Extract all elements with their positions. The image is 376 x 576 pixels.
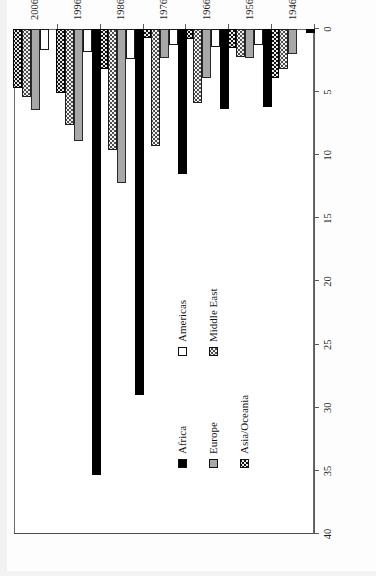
bar-africa-1986-1995: [135, 29, 144, 395]
legend-label-asia-oceania: Asia/Oceania: [238, 395, 250, 454]
europe-swatch: [209, 459, 218, 468]
category-label-1946-1955: 1946-1955: [287, 0, 298, 20]
bar-africa-1976-1985: [178, 29, 187, 174]
value-tick-20: [314, 281, 319, 282]
bar-europe-1966-1975: [202, 29, 211, 78]
value-tick-25: [314, 344, 319, 345]
bar-americas-1966-1975: [211, 29, 220, 47]
legend-item-europe: Europe: [207, 422, 219, 468]
legend-label-middle-east: Middle East: [207, 289, 219, 342]
middle-east-swatch: [209, 347, 218, 356]
bar-middle-east-1996-2005: [65, 29, 74, 125]
category-label-1956-1965: 1956-1965: [244, 0, 255, 20]
category-label-1986-1995: 1986-1995: [115, 0, 126, 20]
value-tick-label-25: 25: [322, 330, 333, 360]
bar-americas-1976-1985: [169, 29, 178, 45]
value-tick-label-30: 30: [322, 393, 333, 423]
value-tick-label-10: 10: [322, 140, 333, 170]
value-tick-35: [314, 470, 319, 471]
value-tick-label-20: 20: [322, 267, 333, 297]
bar-middle-east-1976-1985: [151, 29, 160, 146]
bar-europe-2006-2012: [31, 29, 40, 110]
legend-label-africa: Africa: [176, 426, 188, 454]
category-label-2006-2012: 2006-2012: [29, 0, 40, 20]
figure: 0510152025303540 1946-19551956-19651966-…: [0, 0, 376, 576]
bar-africa-1966-1975: [220, 29, 229, 109]
bar-asia-oceania-1996-2005: [56, 29, 65, 93]
americas-swatch: [178, 347, 187, 356]
rotated-figure-wrapper: 0510152025303540 1946-19551956-19651966-…: [0, 0, 376, 576]
value-axis-baseline: [14, 533, 314, 534]
value-tick-label-40: 40: [322, 519, 333, 549]
category-label-1996-2005: 1996-2005: [72, 0, 83, 20]
value-tick-10: [314, 154, 319, 155]
bar-americas-1986-1995: [126, 29, 135, 59]
chart-legend: AfricaAmericasEuropeMiddle EastAsia/Ocea…: [176, 258, 268, 468]
value-tick-label-5: 5: [322, 77, 333, 107]
bar-middle-east-1966-1975: [193, 29, 202, 103]
africa-swatch: [178, 459, 187, 468]
legend-label-europe: Europe: [207, 422, 219, 454]
value-tick-30: [314, 407, 319, 408]
legend-item-middle-east: Middle East: [207, 289, 219, 356]
legend-item-africa: Africa: [176, 426, 188, 468]
chart-page: 0510152025303540 1946-19551956-19651966-…: [0, 0, 376, 576]
legend-item-americas: Americas: [176, 300, 188, 356]
value-tick-15: [314, 217, 319, 218]
bar-middle-east-1946-1955: [279, 29, 288, 69]
bar-middle-east-1956-1965: [236, 29, 245, 57]
bar-europe-1986-1995: [117, 29, 126, 183]
bar-asia-oceania-2006-2012: [13, 29, 22, 88]
bar-europe-1996-2005: [74, 29, 83, 141]
category-label-1966-1975: 1966-1975: [201, 0, 212, 20]
value-tick-40: [314, 533, 319, 534]
legend-item-asia-oceania: Asia/Oceania: [238, 395, 250, 468]
bar-africa-1996-2005: [92, 29, 101, 475]
value-tick-label-0: 0: [322, 14, 333, 44]
bar-africa-1956-1965: [263, 29, 272, 107]
value-tick-label-35: 35: [322, 456, 333, 486]
bar-middle-east-1986-1995: [108, 29, 117, 150]
value-axis-line: [314, 29, 315, 534]
bar-africa-1946-1955: [306, 29, 315, 33]
bar-americas-1996-2005: [83, 29, 92, 52]
bar-europe-1976-1985: [160, 29, 169, 58]
asia-oceania-swatch: [240, 459, 249, 468]
bar-middle-east-2006-2012: [22, 29, 31, 97]
value-tick-label-15: 15: [322, 203, 333, 233]
bar-europe-1946-1955: [288, 29, 297, 54]
value-tick-5: [314, 91, 319, 92]
bar-europe-1956-1965: [245, 29, 254, 58]
category-label-1976-1985: 1976-1985: [158, 0, 169, 20]
bar-americas-2006-2012: [40, 29, 49, 50]
bar-americas-1956-1965: [254, 29, 263, 45]
legend-label-americas: Americas: [176, 300, 188, 342]
